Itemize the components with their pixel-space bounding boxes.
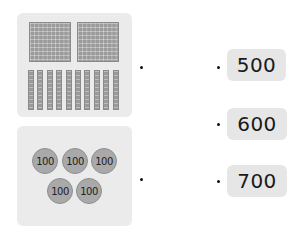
coin-100: 100	[76, 178, 102, 204]
coin-100: 100	[32, 148, 58, 174]
ten-rod-block	[28, 70, 34, 110]
ten-rod-block	[37, 70, 43, 110]
ten-rod-block	[66, 70, 72, 110]
match-dot-left-2[interactable]	[140, 178, 143, 181]
ten-rod-block	[113, 70, 119, 110]
coin-100: 100	[47, 178, 73, 204]
answer-600-button[interactable]: 600	[227, 108, 287, 140]
ten-rod-block	[56, 70, 62, 110]
hundred-square-block	[77, 22, 119, 62]
coin-100: 100	[91, 148, 117, 174]
ten-rod-block	[84, 70, 90, 110]
coin-100: 100	[62, 148, 88, 174]
ten-rod-block	[94, 70, 100, 110]
coins-card: 100 100 100 100 100	[17, 126, 132, 226]
match-dot-right-1[interactable]	[217, 66, 220, 69]
ten-rod-block	[47, 70, 53, 110]
match-dot-right-2[interactable]	[217, 123, 220, 126]
match-dot-right-3[interactable]	[217, 180, 220, 183]
answer-700-button[interactable]: 700	[227, 165, 287, 197]
match-dot-left-1[interactable]	[140, 66, 143, 69]
blocks-card	[17, 13, 132, 117]
ten-rod-block	[75, 70, 81, 110]
ten-rod-block	[103, 70, 109, 110]
hundred-square-block	[29, 22, 71, 62]
answer-500-button[interactable]: 500	[227, 49, 286, 81]
